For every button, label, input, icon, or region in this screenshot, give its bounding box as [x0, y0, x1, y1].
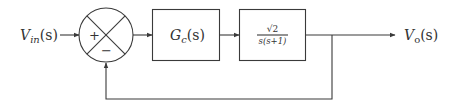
input-label: Vin(s) [20, 27, 58, 45]
block-diagram: Vin(s) + − Gc(s) √2 s(s+1) Vo(s) [0, 0, 454, 103]
plant-numerator: √2 [267, 24, 278, 34]
output-label: Vo(s) [404, 27, 438, 45]
minus-sign: − [101, 43, 112, 58]
summing-junction: + − [79, 8, 133, 62]
plant-block: √2 s(s+1) [240, 10, 306, 61]
plant-denominator: s(s+1) [259, 36, 287, 46]
controller-block: Gc(s) [153, 10, 220, 61]
controller-label: Gc(s) [170, 27, 205, 45]
plus-sign: + [89, 28, 100, 43]
